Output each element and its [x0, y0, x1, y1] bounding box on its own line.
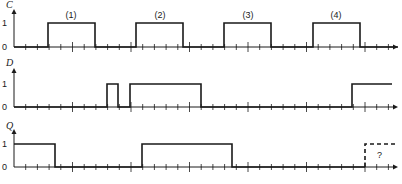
signal-name-label: Q — [6, 120, 14, 131]
unknown-state-label: ? — [377, 150, 382, 160]
level-1-label: 1 — [2, 139, 7, 149]
signals-layer: C10(1)(2)(3)(4)D10Q10? — [2, 0, 398, 172]
time-axis-arrow-icon — [393, 105, 398, 110]
signal-q: Q10? — [2, 120, 398, 172]
time-axis-arrow-icon — [393, 165, 398, 170]
level-0-label: 0 — [2, 42, 7, 52]
level-1-label: 1 — [2, 18, 7, 28]
pulse-label: (2) — [155, 10, 166, 20]
timing-diagram-svg: C10(1)(2)(3)(4)D10Q10? — [0, 0, 402, 184]
signal-name-label: D — [5, 57, 14, 68]
signal-c: C10(1)(2)(3)(4) — [2, 0, 398, 52]
level-0-label: 0 — [2, 102, 7, 112]
y-axis-arrow-icon — [12, 68, 17, 73]
pulse-label: (4) — [331, 10, 342, 20]
level-1-label: 1 — [2, 79, 7, 89]
timing-diagram: C10(1)(2)(3)(4)D10Q10? — [0, 0, 402, 184]
waveform — [14, 84, 392, 107]
pulse-label: (3) — [243, 10, 254, 20]
waveform — [14, 23, 398, 47]
pulse-label: (1) — [66, 10, 77, 20]
signal-name-label: C — [6, 0, 13, 10]
signal-d: D10 — [2, 57, 398, 112]
level-0-label: 0 — [2, 162, 7, 172]
